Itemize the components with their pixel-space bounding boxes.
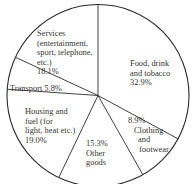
label-food-value: 32.9% [130,78,170,88]
label-services: Services (entertainment, sport, telephon… [37,29,93,77]
label-clothing-line3: footwear [128,145,169,155]
label-clothing: 8.9% Clothing and footwear [128,116,169,154]
label-other-goods: 15.3% Other goods [86,139,108,168]
label-clothing-line2: and [128,135,169,145]
label-other-goods-line1: Other [86,149,108,159]
label-other-goods-value: 15.3% [86,139,108,149]
label-housing-line1: Housing and [25,107,75,117]
label-food: Food, drink and tobacco 32.9% [130,59,170,88]
label-housing-value: 19.0% [25,136,75,146]
label-clothing-value: 8.9% [128,116,169,126]
label-services-value: 18.1% [37,67,93,77]
label-housing: Housing and fuel (for light, heat etc.) … [25,107,75,145]
label-services-line4: etc.) [37,58,93,68]
label-housing-line2: fuel (for [25,117,75,127]
label-services-line3: sport, telephone, [37,48,93,58]
label-transport: Transport 5.8% [10,84,62,94]
label-housing-line3: light, heat etc.) [25,126,75,136]
label-clothing-line1: Clothing [128,126,169,136]
label-services-line2: (entertainment, [37,39,93,49]
label-food-line2: and tobacco [130,69,170,79]
label-services-line1: Services [37,29,93,39]
label-food-line1: Food, drink [130,59,170,69]
label-transport-text: Transport 5.8% [10,84,62,94]
label-other-goods-line2: goods [86,158,108,168]
